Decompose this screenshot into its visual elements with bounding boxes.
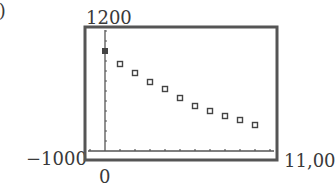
data-point	[223, 114, 228, 119]
data-point	[178, 96, 183, 101]
data-point	[238, 118, 243, 123]
data-point	[102, 48, 108, 54]
plot-frame	[85, 27, 277, 160]
data-point	[208, 109, 213, 114]
data-point	[133, 71, 138, 76]
data-point	[253, 123, 258, 128]
data-point	[118, 62, 123, 67]
data-point	[148, 80, 153, 85]
data-point	[163, 87, 168, 92]
data-point	[193, 104, 198, 109]
data-points	[102, 48, 258, 128]
axes	[88, 30, 274, 151]
